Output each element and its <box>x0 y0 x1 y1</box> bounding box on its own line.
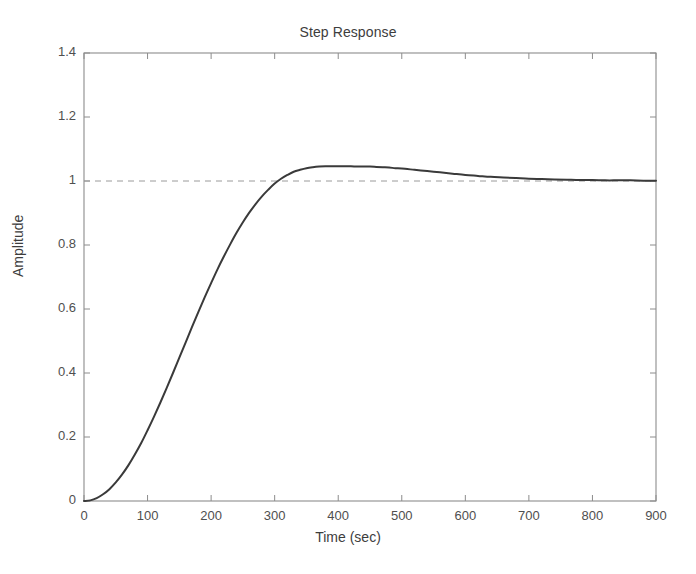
axis-ticks <box>84 53 656 501</box>
y-tick-label: 0 <box>30 492 76 507</box>
x-tick-label: 700 <box>504 508 554 523</box>
axes-frame <box>84 53 656 501</box>
x-tick-label: 500 <box>377 508 427 523</box>
x-tick-label: 900 <box>631 508 681 523</box>
x-tick-label: 100 <box>123 508 173 523</box>
y-tick-label: 1.4 <box>30 44 76 59</box>
x-tick-label: 200 <box>186 508 236 523</box>
y-tick-label: 0.4 <box>30 364 76 379</box>
y-tick-label: 1.2 <box>30 108 76 123</box>
data-series <box>84 166 656 501</box>
figure-canvas: Step Response Amplitude Time (sec) 00.20… <box>0 0 696 574</box>
y-tick-label: 0.6 <box>30 300 76 315</box>
x-tick-label: 600 <box>440 508 490 523</box>
x-tick-label: 300 <box>250 508 300 523</box>
x-tick-label: 0 <box>59 508 109 523</box>
x-tick-label: 400 <box>313 508 363 523</box>
y-tick-label: 0.2 <box>30 428 76 443</box>
y-tick-label: 1 <box>30 172 76 187</box>
x-tick-label: 800 <box>567 508 617 523</box>
plot-area <box>0 0 696 574</box>
y-tick-label: 0.8 <box>30 236 76 251</box>
